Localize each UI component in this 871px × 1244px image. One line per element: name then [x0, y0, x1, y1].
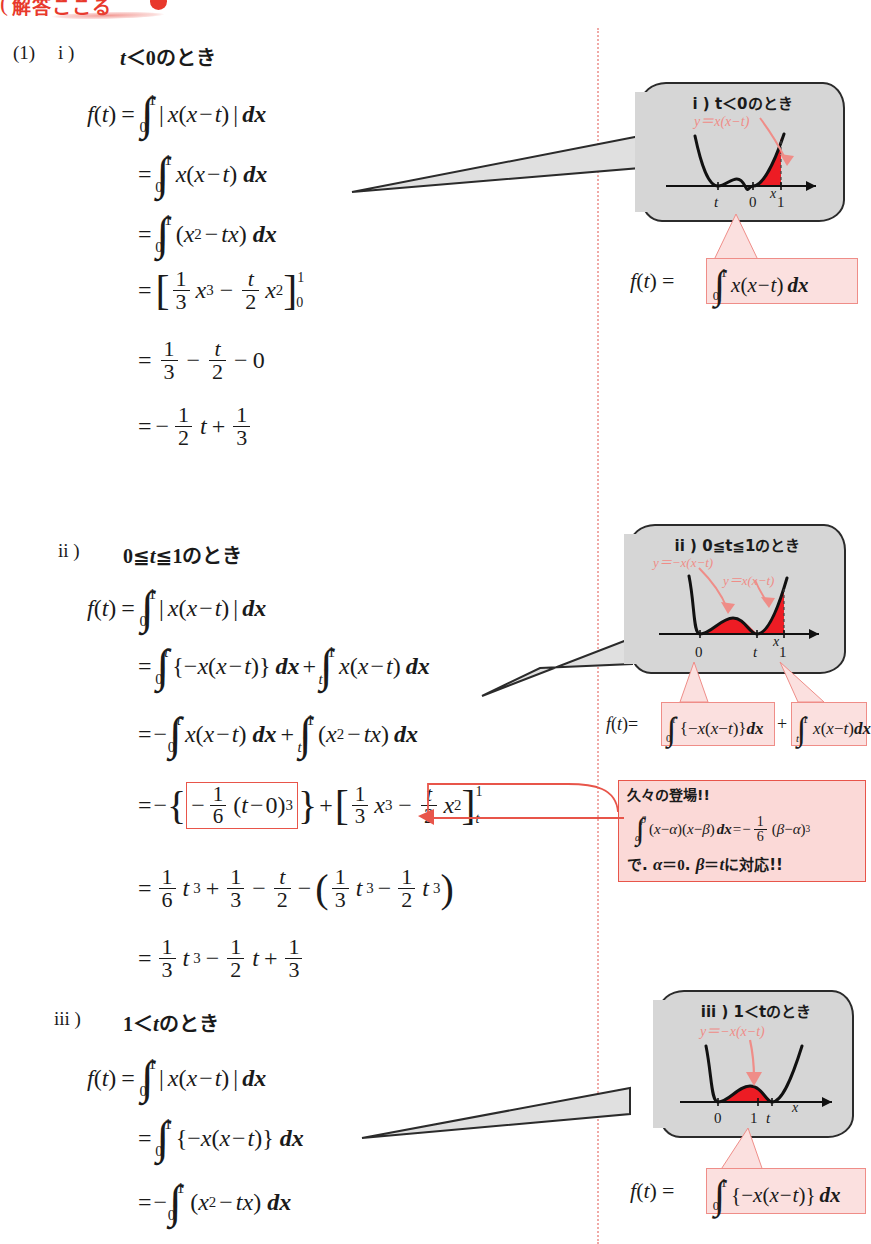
header-red-blob	[150, 0, 167, 10]
cloud-3-formula-box: ∫10 {−x(x−t)} dx	[706, 1168, 866, 1214]
answer-header-banner: ( 解答ここる	[0, 0, 215, 24]
equation-ii-5: = 16 t3 + 13 − t2 − ( 13 t3 − 12 t3 )	[138, 866, 454, 911]
cloud-3-tick-t: t	[766, 1110, 770, 1127]
cloud-1-axis-label: x	[770, 186, 776, 202]
cloud-3-tick-1: 1	[750, 1110, 758, 1127]
problem-number: (1)	[13, 42, 35, 64]
equation-ii-2: = ∫t0 {−x(x−t)} dx + ∫1t x(x−t) dx	[138, 644, 430, 688]
cloud-2-formula-prefix: f(t)=	[606, 714, 638, 735]
section-condition-i: t＜0のとき	[120, 42, 216, 71]
section-condition-iii: 1＜tのとき	[123, 1008, 219, 1037]
cloud-3-formula-prefix: f(t)=	[630, 1178, 674, 1204]
cloud-3-formula: ∫10 {−x(x−t)} dx	[713, 1173, 840, 1217]
equation-iii-3: =− ∫10 (x2 −tx) dx	[138, 1180, 291, 1224]
header-underline-stroke	[52, 11, 164, 20]
cloud-2-tick-t: t	[753, 644, 757, 661]
equation-ii-6: = 13 t3 − 12 t + 13	[138, 936, 305, 981]
equation-iii-2: = ∫10 {−x(x−t)} dx	[138, 1116, 304, 1160]
equation-i-1: f(t) = ∫10 | x(x−t) | dx	[87, 92, 266, 136]
equation-i-6: =− 12 t + 13	[138, 404, 253, 449]
cloud-2-formula-box-right: ∫1t x(x−t) dx	[791, 702, 867, 746]
annotation-note-box: 久々の登場!! ∫βα (x−α) (x−β) dx =− 16 (β−α)3 …	[618, 780, 866, 882]
equation-i-2: = ∫10 x(x−t) dx	[138, 152, 267, 196]
section-label-i: i )	[58, 42, 74, 64]
pointer-wedge-1	[352, 130, 652, 210]
equation-ii-3: =− ∫t0 x(x−t) dx + ∫1t (x2 −tx) dx	[138, 712, 418, 756]
cloud-callout-2: ii ) 0≦t≦1のとき x 0 t 1 y＝−x(x−t) y＝x(x−t)	[629, 524, 846, 674]
equation-ii-1: f(t) = ∫10 | x(x−t) | dx	[87, 586, 266, 630]
cloud-3-title: iii ) 1＜tのとき	[660, 1000, 852, 1021]
cloud-2-formula-left: ∫t0 {−x(x−t)} dx	[666, 707, 763, 751]
pointer-wedge-3	[362, 1080, 642, 1150]
cloud-1-tick-t: t	[714, 194, 718, 211]
cloud-2-tick-1: 1	[779, 644, 787, 661]
cloud-3-tick-0: 0	[714, 1110, 722, 1127]
cloud-1-formula-box: ∫10 x(x−t) dx	[706, 258, 858, 304]
cloud-2-curve-label-2: y＝x(x−t)	[723, 570, 774, 589]
equation-i-5: = 13 − t2 −0	[138, 338, 265, 383]
section-label-ii: ii )	[58, 540, 80, 562]
cloud-2-formula-right: ∫1t x(x−t) dx	[796, 707, 871, 751]
section-condition-ii: 0≦t≦1のとき	[123, 540, 242, 569]
cloud-1-tick-1: 1	[777, 194, 785, 211]
header-open-paren: (	[0, 0, 8, 17]
cloud-2-curve-label-1: y＝−x(x−t)	[653, 552, 713, 571]
cloud-callout-3: iii ) 1＜tのとき x 0 1 t y＝−x(x−t)	[658, 990, 854, 1138]
note-formula: ∫βα (x−α) (x−β) dx =− 16 (β−α)3	[635, 807, 810, 851]
equation-i-4: = [ 13 x3 − t2 x2 ]10	[138, 268, 303, 313]
cloud-2-formula-box-left: ∫t0 {−x(x−t)} dx	[661, 702, 775, 746]
equation-i-3: = ∫10 (x2 −tx) dx	[138, 212, 277, 256]
cloud-3-curve-label: y＝−x(x−t)	[700, 1020, 765, 1040]
note-line-1: 久々の登場!!	[627, 784, 710, 804]
cloud-1-tick-0: 0	[749, 194, 757, 211]
cloud-2-formula-plus: +	[777, 714, 787, 735]
cloud-callout-1: i ) t＜0のとき x t 0 1 y＝x(x−t)	[640, 82, 845, 222]
cloud-2-tick-0: 0	[695, 644, 703, 661]
note-line-3: で. α＝0. β＝tに対応!!	[627, 853, 783, 875]
equation-iii-1: f(t) = ∫10 | x(x−t) | dx	[87, 1056, 266, 1100]
section-label-iii: iii )	[54, 1008, 81, 1030]
cloud-1-formula-prefix: f(t)=	[630, 268, 674, 294]
cloud-3-axis-label: x	[792, 1100, 798, 1116]
note-pointer-arrow	[398, 782, 628, 842]
cloud-1-formula: ∫10 x(x−t) dx	[713, 263, 808, 307]
cloud-1-curve-label: y＝x(x−t)	[694, 110, 749, 130]
